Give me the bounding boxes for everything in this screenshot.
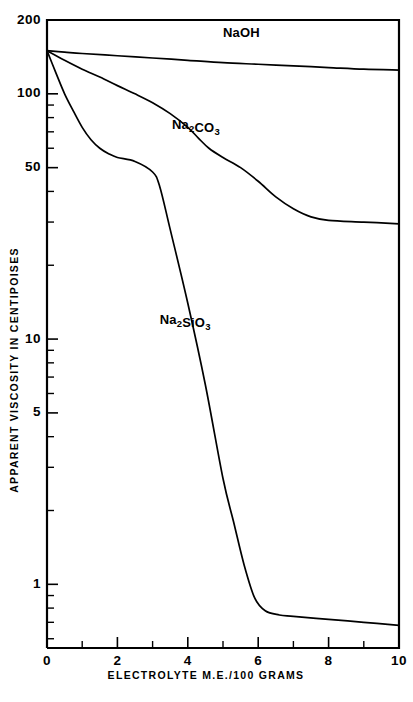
y-tick-label: 100 bbox=[17, 85, 41, 100]
chart-background bbox=[0, 0, 413, 702]
y-tick-label: 200 bbox=[17, 12, 41, 27]
x-tick-label: 0 bbox=[43, 653, 51, 668]
x-tick-label: 2 bbox=[113, 653, 121, 668]
y-tick-label: 50 bbox=[25, 159, 41, 174]
y-tick-label: 1 bbox=[33, 576, 41, 591]
y-tick-label: 5 bbox=[33, 404, 41, 419]
y-tick-label: 10 bbox=[25, 331, 41, 346]
viscosity-log-line-chart: 200100501051 0246810 NaOHNa2CO3Na2SiO3 E… bbox=[0, 0, 413, 702]
x-tick-label: 6 bbox=[254, 653, 262, 668]
y-axis-title: APPARENT VISCOSITY IN CENTIPOISES bbox=[8, 247, 20, 493]
x-tick-label: 4 bbox=[184, 653, 192, 668]
x-axis-title: ELECTROLYTE M.E./100 GRAMS bbox=[108, 669, 305, 681]
x-tick-label: 8 bbox=[325, 653, 333, 668]
chart-figure: 200100501051 0246810 NaOHNa2CO3Na2SiO3 E… bbox=[0, 0, 413, 702]
series-label-naoh: NaOH bbox=[223, 25, 260, 40]
x-tick-label: 10 bbox=[391, 653, 407, 668]
